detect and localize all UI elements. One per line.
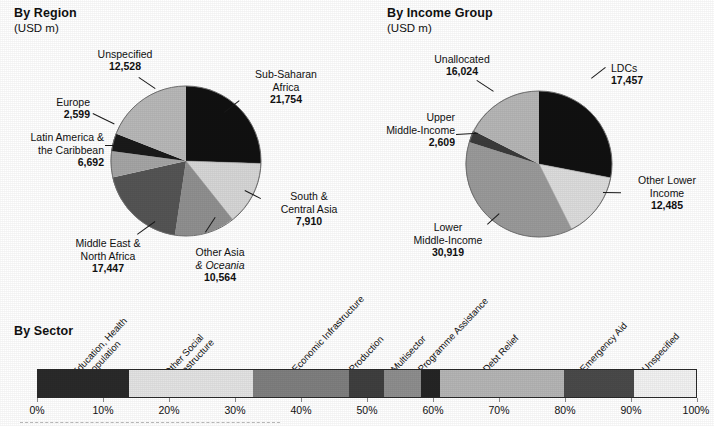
slice-ldcs <box>539 91 612 178</box>
region-label-middle-east-value: 17,447 <box>56 262 160 275</box>
segment-economic-infrastructure <box>253 370 349 397</box>
segment-emergency-aid <box>564 370 634 397</box>
leader-ldcs <box>591 67 606 79</box>
sector-panel: By Sector Education, Health& Population … <box>0 300 714 426</box>
income-label-upper-middle-value: 2,609 <box>357 136 455 149</box>
region-label-other-asia-name: Other Asia <box>195 246 244 258</box>
income-label-upper-middle: Upper Middle-Income 2,609 <box>357 111 455 149</box>
axis-label-80: 80% <box>548 404 582 416</box>
income-label-other-lower-name: Other Lower <box>638 174 696 186</box>
tick-60 <box>433 398 434 402</box>
tick-50 <box>367 398 368 402</box>
income-label-unallocated: Unallocated 16,024 <box>419 53 505 78</box>
sector-name-programme-assistance: Programme Assistance <box>416 296 490 375</box>
income-label-ldcs-name: LDCs <box>611 62 637 74</box>
region-pie <box>110 85 262 237</box>
income-label-unallocated-value: 16,024 <box>419 65 505 77</box>
income-label-lower-middle-value: 30,919 <box>393 246 503 259</box>
sector-stacked-bar <box>37 369 697 398</box>
axis-label-40: 40% <box>284 404 318 416</box>
income-pie-svg <box>465 90 613 238</box>
region-label-other-asia-value: 10,564 <box>178 271 262 284</box>
axis-label-50: 50% <box>350 404 384 416</box>
region-label-other-asia-name2: & Oceania <box>195 259 244 271</box>
income-label-unallocated-name: Unallocated <box>434 53 489 65</box>
region-label-middle-east-name2: North Africa <box>81 250 136 262</box>
region-pie-svg <box>110 85 262 237</box>
axis-label-10: 10% <box>86 404 120 416</box>
income-label-lower-middle: Lower Middle-Income 30,919 <box>393 221 503 259</box>
income-label-ldcs-value: 17,457 <box>611 74 691 86</box>
region-label-sub-saharan-name2: Africa <box>273 81 300 93</box>
region-label-middle-east: Middle East & North Africa 17,447 <box>56 237 160 275</box>
income-label-lower-middle-name: Lower <box>434 221 463 233</box>
tick-10 <box>103 398 104 402</box>
region-label-unspecified-name: Unspecified <box>98 48 153 60</box>
income-chart-unit: (USD m) <box>387 22 432 34</box>
region-label-south-central-asia-name: South & <box>290 190 327 202</box>
tick-30 <box>235 398 236 402</box>
axis-label-70: 70% <box>482 404 516 416</box>
bottom-dashed-rule <box>20 422 280 423</box>
tick-20 <box>169 398 170 402</box>
region-label-unspecified: Unspecified 12,528 <box>81 48 169 73</box>
income-label-upper-middle-name: Upper <box>426 111 455 123</box>
segment-multisector <box>384 370 421 397</box>
leader-latin-america <box>105 145 118 146</box>
segment-education-health-population <box>38 370 129 397</box>
tick-40 <box>301 398 302 402</box>
tick-90 <box>631 398 632 402</box>
segment-production <box>349 370 384 397</box>
region-label-europe: Europe 2,599 <box>24 96 90 121</box>
income-panel: By Income Group (USD m) Unallocated 16,0… <box>357 0 714 300</box>
region-label-latin-america-value: 6,692 <box>2 156 104 169</box>
region-label-sub-saharan: Sub-Saharan Africa 21,754 <box>240 68 332 106</box>
segment-debt-relief <box>440 370 564 397</box>
segment-unspecified <box>634 370 696 397</box>
region-label-other-asia: Other Asia & Oceania 10,564 <box>178 246 262 284</box>
region-label-south-central-asia-name2: Central Asia <box>281 203 338 215</box>
region-label-europe-name: Europe <box>56 96 90 108</box>
region-label-middle-east-name: Middle East & <box>76 237 141 249</box>
sector-name-emergency-aid: Emergency Aid <box>578 321 629 375</box>
sector-chart-title: By Sector <box>14 324 73 338</box>
income-label-other-lower: Other Lower Income 12,485 <box>621 174 713 212</box>
region-chart-unit: (USD m) <box>14 22 59 34</box>
region-label-europe-value: 2,599 <box>24 108 90 120</box>
axis-label-30: 30% <box>218 404 252 416</box>
segment-programme-assistance <box>421 370 440 397</box>
segment-other-social-infrastructure <box>129 370 253 397</box>
axis-label-60: 60% <box>416 404 450 416</box>
tick-70 <box>499 398 500 402</box>
income-label-other-lower-name2: Income <box>650 187 684 199</box>
tick-100 <box>697 398 698 402</box>
income-label-other-lower-value: 12,485 <box>621 199 713 212</box>
region-label-latin-america: Latin America & the Caribbean 6,692 <box>2 131 104 169</box>
income-label-ldcs: LDCs 17,457 <box>611 62 691 87</box>
region-label-unspecified-value: 12,528 <box>81 60 169 72</box>
income-chart-title: By Income Group <box>387 6 493 20</box>
tick-80 <box>565 398 566 402</box>
tick-0 <box>37 398 38 402</box>
axis-label-90: 90% <box>614 404 648 416</box>
region-label-south-central-asia-value: 7,910 <box>262 215 356 228</box>
region-label-latin-america-name2: the Caribbean <box>38 144 104 156</box>
income-label-upper-middle-name2: Middle-Income <box>386 124 455 136</box>
region-label-sub-saharan-value: 21,754 <box>240 93 332 106</box>
region-label-latin-america-name: Latin America & <box>30 131 104 143</box>
axis-label-0: 0% <box>22 404 52 416</box>
income-pie <box>465 90 613 238</box>
region-chart-title: By Region <box>14 6 77 20</box>
income-label-lower-middle-name2: Middle-Income <box>414 234 483 246</box>
region-label-south-central-asia: South & Central Asia 7,910 <box>262 190 356 228</box>
axis-label-20: 20% <box>152 404 186 416</box>
axis-label-100: 100% <box>676 404 714 416</box>
region-label-sub-saharan-name: Sub-Saharan <box>255 68 317 80</box>
region-panel: By Region (USD m) Unspecified 12,528 <box>0 0 357 300</box>
